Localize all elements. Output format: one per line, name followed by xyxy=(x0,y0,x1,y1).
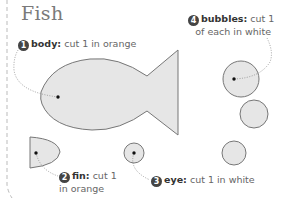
callout-instruction: cut 1 xyxy=(250,13,274,24)
marker-dot-body xyxy=(56,95,59,98)
callout-fin: 2fin: cut 1 in orange xyxy=(59,170,117,195)
callout-part: eye: xyxy=(164,174,187,185)
callout-eye: 3eye: cut 1 in white xyxy=(151,174,255,187)
bubble-large-piece xyxy=(223,61,259,97)
callout-instruction: in orange xyxy=(59,183,117,195)
callout-part: fin: xyxy=(72,170,90,181)
callout-instruction: of each in white xyxy=(188,26,271,38)
callout-instruction: cut 1 in orange xyxy=(64,38,136,49)
callout-bubbles: 4bubbles: cut 1 of each in white xyxy=(188,13,271,38)
marker-dot-bubble xyxy=(232,77,235,80)
callout-part: body: xyxy=(31,38,61,49)
fish-body-piece xyxy=(41,50,178,135)
dashed-border xyxy=(7,0,12,198)
number-badge: 4 xyxy=(188,15,199,26)
number-badge: 2 xyxy=(59,172,70,183)
bubble-small-piece xyxy=(222,141,246,165)
callout-body: 1body: cut 1 in orange xyxy=(18,38,136,51)
callout-instruction: cut 1 in white xyxy=(190,174,255,185)
bubble-medium-piece xyxy=(240,100,268,128)
marker-dot-fin xyxy=(34,151,37,154)
number-badge: 3 xyxy=(151,176,162,187)
callout-instruction: cut 1 xyxy=(93,170,117,181)
callout-part: bubbles: xyxy=(201,13,247,24)
marker-dot-eye xyxy=(132,151,135,154)
number-badge: 1 xyxy=(18,40,29,51)
